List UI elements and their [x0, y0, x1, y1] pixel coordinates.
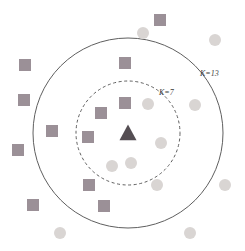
circle-marker — [106, 160, 118, 172]
square-marker — [46, 125, 58, 137]
outer-radius-label: K=13 — [199, 69, 219, 78]
square-marker — [119, 57, 131, 69]
square-marker — [18, 94, 30, 106]
circle-marker — [189, 99, 201, 111]
circle-marker — [142, 98, 154, 110]
knn-figure: K=13K=7 — [0, 0, 245, 251]
square-marker — [19, 59, 31, 71]
circle-marker — [125, 157, 137, 169]
circle-marker — [184, 227, 196, 239]
circle-marker — [54, 227, 66, 239]
square-marker — [82, 131, 94, 143]
circle-marker — [151, 179, 163, 191]
circle-marker — [155, 137, 167, 149]
triangle-marker — [120, 125, 137, 141]
square-marker — [27, 199, 39, 211]
square-marker — [95, 107, 107, 119]
circle-marker — [209, 34, 221, 46]
square-marker — [98, 200, 110, 212]
knn-diagram-canvas: K=13K=7 — [0, 0, 245, 251]
square-marker — [12, 144, 24, 156]
square-marker — [119, 97, 131, 109]
inner-radius-label: K=7 — [158, 88, 175, 97]
circle-marker — [219, 179, 231, 191]
data-markers-group — [12, 14, 231, 239]
annotation-labels-group: K=13K=7 — [158, 69, 219, 97]
circle-marker — [137, 27, 149, 39]
square-marker — [83, 179, 95, 191]
square-marker — [154, 14, 166, 26]
